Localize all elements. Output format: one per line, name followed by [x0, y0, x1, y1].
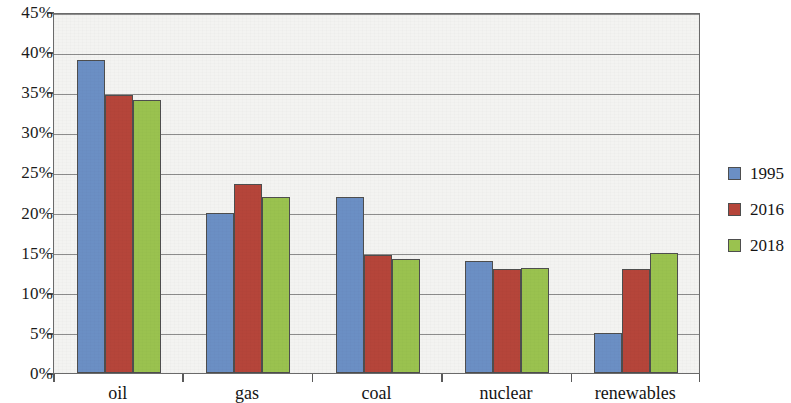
legend-item-2018[interactable]: 2018	[728, 227, 791, 263]
legend-swatch-icon	[728, 239, 741, 252]
bar-nuclear-2018	[521, 268, 549, 373]
x-axis-tick-label-gas: gas	[235, 383, 259, 403]
legend-label: 1995	[750, 165, 784, 182]
y-axis: 0%5%10%15%20%25%30%35%40%45%	[0, 0, 53, 402]
legend: 199520162018	[728, 155, 791, 263]
bar-coal-2016	[364, 255, 392, 373]
x-axis-end-tick	[53, 374, 55, 382]
legend-item-1995[interactable]: 1995	[728, 155, 791, 191]
y-axis-tick-label: 0%	[9, 365, 53, 382]
x-axis-tick-label-oil: oil	[108, 383, 127, 403]
y-axis-tick-label: 15%	[9, 245, 53, 262]
x-axis-tick-mark	[571, 374, 573, 382]
bar-renewables-1995	[594, 333, 622, 373]
x-axis-tick-label-renewables: renewables	[595, 383, 676, 403]
y-axis-tick-label: 40%	[9, 44, 53, 61]
bar-oil-1995	[77, 60, 105, 373]
bar-nuclear-2016	[493, 269, 521, 373]
bar-nuclear-1995	[465, 261, 493, 373]
y-axis-tick-label: 20%	[9, 205, 53, 222]
y-axis-tick-label: 30%	[9, 124, 53, 141]
bar-coal-2018	[392, 259, 420, 373]
bar-gas-2018	[262, 197, 290, 373]
y-axis-tick-label: 35%	[9, 84, 53, 101]
x-axis: oilgascoalnuclearrenewables	[53, 374, 700, 402]
x-axis-end-tick	[699, 374, 701, 382]
bar-gas-2016	[234, 184, 262, 373]
x-axis-tick-label-coal: coal	[362, 383, 392, 403]
legend-swatch-icon	[728, 203, 741, 216]
bar-coal-1995	[336, 197, 364, 373]
x-axis-tick-mark	[441, 374, 443, 382]
x-axis-tick-label-nuclear: nuclear	[479, 383, 532, 403]
legend-swatch-icon	[728, 167, 741, 180]
bar-renewables-2016	[622, 269, 650, 373]
plot-area	[53, 13, 700, 374]
y-axis-tick-label: 5%	[9, 325, 53, 342]
bar-oil-2018	[133, 100, 161, 373]
bar-group	[206, 14, 290, 373]
bar-group	[465, 14, 549, 373]
bar-gas-1995	[206, 213, 234, 373]
legend-label: 2018	[750, 237, 784, 254]
x-axis-tick-mark	[312, 374, 314, 382]
y-axis-tick-label: 10%	[9, 285, 53, 302]
legend-item-2016[interactable]: 2016	[728, 191, 791, 227]
bar-renewables-2018	[650, 253, 678, 373]
bar-oil-2016	[105, 95, 133, 373]
bar-group	[77, 14, 161, 373]
bar-group	[594, 14, 678, 373]
y-axis-tick-label: 45%	[9, 4, 53, 21]
y-axis-tick-label: 25%	[9, 164, 53, 181]
bar-group	[336, 14, 420, 373]
x-axis-tick-mark	[182, 374, 184, 382]
legend-label: 2016	[750, 201, 784, 218]
